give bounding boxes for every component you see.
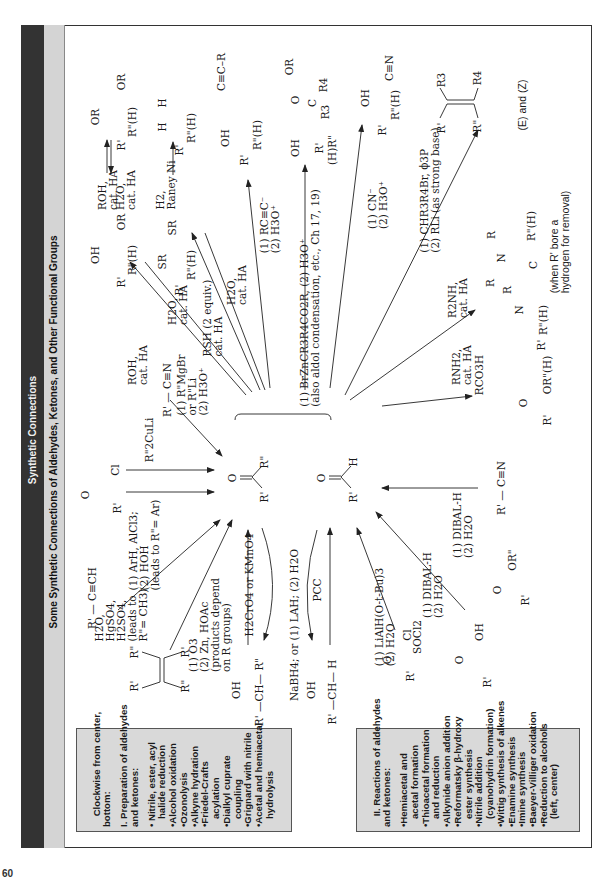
preparation-legend-box: Clockwise from center, bottom:I. Prepara… [76, 728, 292, 832]
preparation-heading: I. Preparation of aldehydes and ketones: [118, 704, 140, 827]
ester-start-r: R' [520, 595, 531, 606]
acid-o: O [454, 656, 465, 665]
lialh-reagent: (1) LiAlH(O-t-Bu)3 (2) H2O [374, 568, 396, 666]
page-number: 60 [2, 868, 13, 879]
acyl-chloride-bottom-r: R' [405, 671, 416, 682]
preparation-legend-text: Clockwise from center, bottom:I. Prepara… [81, 704, 286, 827]
preparation-intro: Clockwise from center, bottom: [91, 712, 113, 827]
ester-dibal-reagent: (1) DIBAL-H (2) H2O [422, 552, 444, 618]
pcc-reagent: PCC [312, 578, 323, 601]
reduction-reagent: NaBH4; or (1) LAH; (2) H2O [289, 549, 300, 701]
reactions-items: •Hemiacetal and acetal formation •Thioac… [398, 701, 559, 827]
nitrile-dibal-reagent: (1) DIBAL-H (2) H2O [452, 492, 474, 558]
prim-alcohol-oh: OH [306, 681, 317, 699]
acid-oh: OH [474, 623, 485, 641]
reactions-legend-box: II. Reactions of aldehydes and ketones:•… [356, 728, 580, 832]
sec-alcohol-oh: OH [231, 681, 242, 699]
reactions-heading: II. Reactions of aldehydes and ketones: [371, 699, 393, 828]
acyl-chloride-bottom-o: O [382, 656, 393, 665]
acid-r: R' [482, 677, 493, 688]
preparation-items: • Nitrile, ester, acyl halide reduction … [146, 723, 275, 827]
ester-start-o: O [492, 586, 503, 595]
ozonolysis-reagent: (1) O3 (2) Zn, HOAc (products depend on … [188, 578, 232, 672]
socl2-reagent: SOCl2 [412, 620, 423, 654]
reactions-legend-text: II. Reactions of aldehydes and ketones:•… [361, 699, 571, 828]
prim-alcohol-chain: R' —CH— H [327, 660, 338, 725]
chromate-reagent: H2CrO4 or KMnO4 [244, 534, 255, 637]
nitrile-bottom: R' — C≡N [496, 461, 507, 515]
ester-start-or: OR" [507, 549, 518, 570]
